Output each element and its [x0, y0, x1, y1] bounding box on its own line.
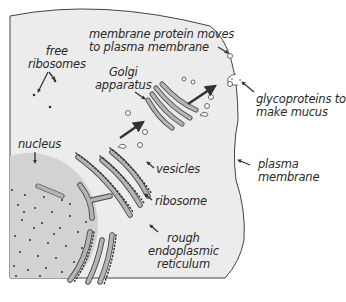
- label-free-ribosomes: free ribosomes: [28, 45, 86, 71]
- label-glycoproteins: glycoproteins to make mucus: [256, 93, 346, 119]
- label-rough-er: rough endoplasmic reticulum: [148, 232, 219, 271]
- label-ribosome: ribosome: [155, 195, 207, 208]
- label-nucleus: nucleus: [18, 138, 61, 151]
- label-line: make mucus: [256, 106, 346, 119]
- label-golgi: Golgi apparatus: [95, 66, 151, 92]
- label-plasma-membrane: plasma membrane: [258, 158, 319, 184]
- label-line: apparatus: [95, 79, 151, 92]
- label-vesicles: vesicles: [156, 163, 200, 176]
- label-line: to plasma membrane: [89, 41, 234, 54]
- label-membrane-protein: membrane protein moves to plasma membran…: [89, 28, 234, 54]
- label-line: membrane: [258, 171, 319, 184]
- label-line: ribosomes: [28, 58, 86, 71]
- label-line: reticulum: [148, 258, 219, 271]
